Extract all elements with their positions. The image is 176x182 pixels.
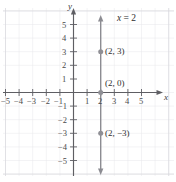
y-tick-label--4: −4 [58,143,67,152]
x-axis-label: x [164,93,168,102]
x-tick-label--4: −4 [14,97,23,106]
y-axis-label: y [68,2,72,11]
y-tick-label-1: 1 [62,75,66,84]
graph-canvas [0,0,176,182]
x-tick-label-2: 2 [98,97,102,106]
x-tick-label-5: 5 [139,97,143,106]
y-tick-label-2: 2 [62,61,66,70]
y-tick-label--2: −2 [58,116,67,125]
point-marker-2-minus3 [98,131,103,136]
equation-label: x = 2 [117,14,136,24]
y-tick-label-5: 5 [62,21,66,30]
line-up-arrow-icon [98,15,103,22]
point-marker-2-0 [98,90,103,95]
point-label-2-3: (2, 3) [105,47,125,56]
y-tick-label--1: −1 [58,102,67,111]
y-tick-label-4: 4 [62,34,66,43]
point-marker-2-3 [98,49,103,54]
x-tick-label-4: 4 [125,97,129,106]
equation-value: 2 [131,13,136,23]
x-tick-label--2: −2 [41,97,50,106]
x-tick-label-3: 3 [112,97,116,106]
x-tick-label-1: 1 [85,97,89,106]
x-tick-label--3: −3 [27,97,36,106]
x-axis-arrow-icon [157,90,164,95]
coordinate-plane-figure: −5 −4 −3 −2 −1 1 2 3 4 5 5 4 3 2 1 −1 −2… [0,0,176,182]
y-tick-label--5: −5 [58,157,67,166]
y-tick-label--3: −3 [58,129,67,138]
point-label-2-minus3: (2, −3) [105,129,130,138]
point-label-2-0: (2, 0) [105,79,125,88]
y-tick-label-3: 3 [62,48,66,57]
equation-relation: = [121,13,131,23]
axis-lines [3,8,163,176]
x-tick-label--5: −5 [1,97,10,106]
